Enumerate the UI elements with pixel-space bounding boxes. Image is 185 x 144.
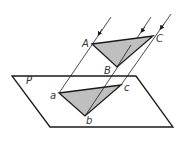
label-c: c	[124, 82, 130, 93]
diagram-canvas: A B C P a b c	[0, 0, 185, 144]
label-B: B	[104, 65, 111, 76]
triangle-ABC	[92, 36, 153, 67]
label-P: P	[26, 75, 33, 86]
projection-diagram: A B C P a b c	[0, 0, 185, 144]
label-A: A	[81, 38, 89, 49]
triangle-abc	[59, 85, 121, 116]
label-a: a	[50, 90, 56, 101]
label-b: b	[86, 115, 92, 126]
label-C: C	[156, 33, 163, 44]
arrow-icon	[161, 24, 164, 28]
